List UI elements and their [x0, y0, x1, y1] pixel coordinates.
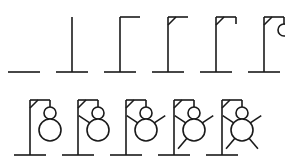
figure-body [39, 119, 61, 141]
hangman-stage-left-arm [62, 100, 109, 155]
figure-leg-left [178, 138, 187, 149]
figure-head [188, 107, 200, 119]
figure-head [44, 107, 56, 119]
hangman-stage-brace [152, 17, 188, 72]
hangman-stage-rope [200, 17, 236, 72]
figure-head [92, 107, 104, 119]
gallows-brace [168, 17, 176, 25]
hangman-stage-left-leg [158, 100, 213, 155]
gallows-brace [222, 100, 230, 108]
figure-arm-left [79, 116, 90, 123]
figure-head [140, 107, 152, 119]
gallows-brace [264, 17, 272, 25]
figure-body [87, 119, 109, 141]
figure-body [183, 119, 205, 141]
hangman-stage-body [14, 100, 61, 155]
gallows-brace [174, 100, 182, 108]
figure-body [231, 119, 253, 141]
figure-arm-left [223, 116, 234, 123]
figure-arm-left [175, 116, 186, 123]
figure-leg-right [249, 138, 258, 149]
hangman-stage-right-arm [110, 100, 165, 155]
figure-arm-right [250, 116, 261, 123]
gallows-brace [126, 100, 134, 108]
figure-arm-right [154, 116, 165, 123]
gallows-brace [216, 17, 224, 25]
hangman-stage-pole [56, 17, 88, 72]
gallows-brace [30, 100, 38, 108]
figure-arm-left [127, 116, 138, 123]
hangman-stage-head [248, 17, 285, 72]
figure-head [236, 107, 248, 119]
hangman-stage-right-leg [206, 100, 261, 155]
figure-arm-right [202, 116, 213, 123]
gallows-brace [78, 100, 86, 108]
hangman-stage-beam [104, 17, 140, 72]
figure-head [278, 24, 285, 36]
figure-leg-left [226, 138, 235, 149]
hangman-progression-diagram [0, 0, 285, 163]
figure-body [135, 119, 157, 141]
stage-layer [8, 17, 285, 155]
